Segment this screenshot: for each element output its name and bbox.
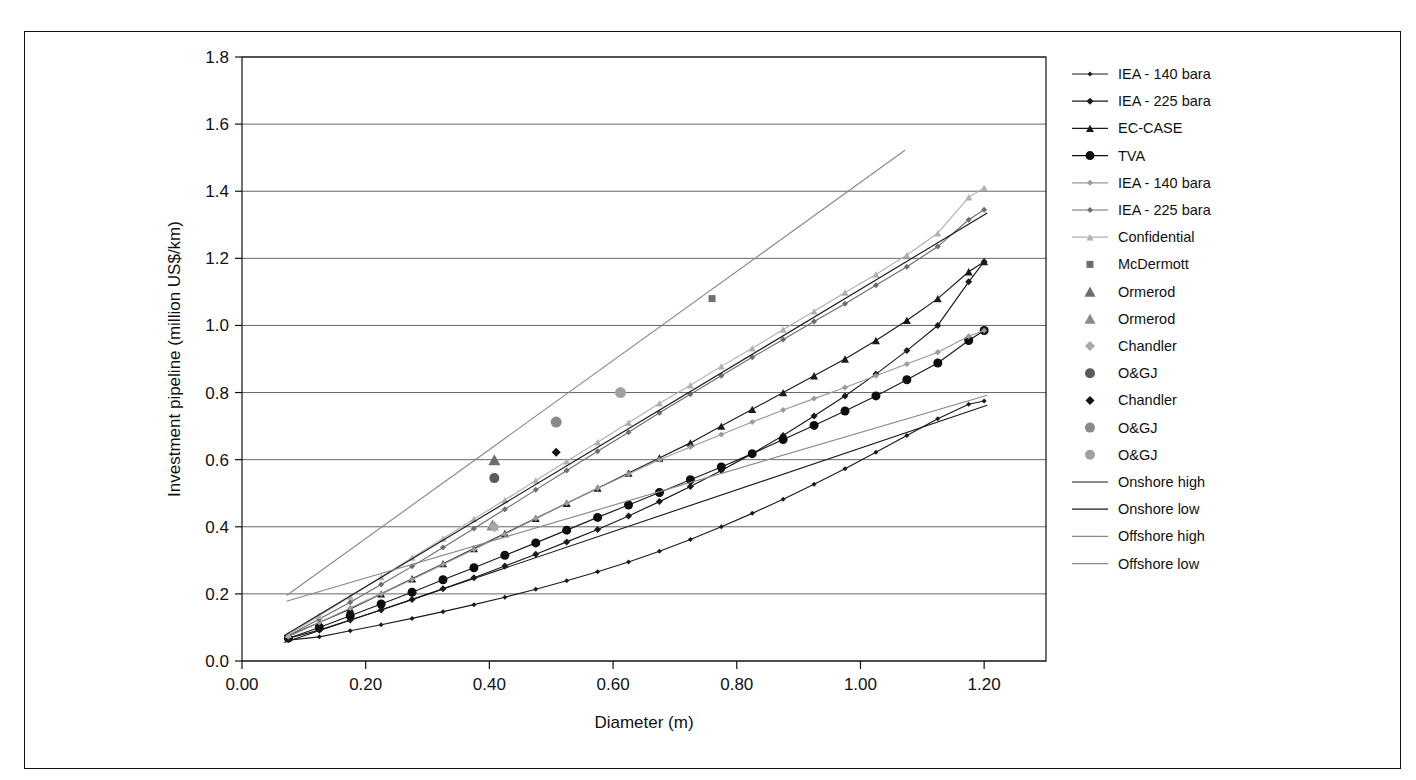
- data-marker-diamond: [564, 467, 570, 473]
- y-tick-label: 0.2: [205, 585, 229, 604]
- data-marker-diamond: [1086, 396, 1095, 405]
- data-marker-diamond: [1088, 72, 1093, 77]
- legend-label: IEA - 140 bara: [1118, 66, 1212, 82]
- data-marker-diamond: [750, 511, 755, 516]
- data-marker-diamond: [935, 349, 941, 355]
- legend-item-7[interactable]: McDermott: [1087, 256, 1189, 272]
- series-line: [284, 405, 987, 642]
- data-marker-diamond: [811, 318, 817, 324]
- data-marker-diamond: [552, 448, 561, 457]
- data-marker-diamond: [981, 207, 987, 213]
- y-tick-label: 0.8: [205, 384, 229, 403]
- legend-label: TVA: [1118, 148, 1145, 164]
- legend-item-12[interactable]: Chandler: [1086, 392, 1178, 408]
- data-marker-circle: [551, 417, 562, 428]
- data-marker-triangle: [872, 337, 880, 344]
- data-marker-diamond: [780, 407, 786, 413]
- data-marker-diamond: [873, 450, 878, 455]
- series-10: [489, 521, 500, 532]
- data-marker-circle: [377, 599, 386, 608]
- legend-item-15[interactable]: Onshore high: [1072, 474, 1205, 490]
- series-line: [288, 262, 984, 636]
- legend-item-10[interactable]: Chandler: [1085, 338, 1177, 354]
- data-marker-triangle: [656, 400, 663, 406]
- data-marker-triangle: [563, 458, 570, 464]
- y-tick-label: 1.2: [205, 249, 229, 268]
- data-marker-diamond: [966, 402, 971, 407]
- y-tick-label: 0.0: [205, 652, 229, 671]
- data-marker-diamond: [843, 466, 848, 471]
- chart-axes-layer: [235, 57, 1046, 669]
- data-marker-triangle: [981, 185, 988, 191]
- legend-item-13[interactable]: O&GJ: [1085, 420, 1157, 436]
- legend-item-17[interactable]: Offshore high: [1072, 528, 1205, 544]
- legend-item-4[interactable]: IEA - 140 bara: [1072, 175, 1212, 191]
- data-marker-diamond: [842, 301, 848, 307]
- data-marker-diamond: [489, 521, 500, 532]
- y-tick-label: 0.4: [205, 518, 229, 537]
- data-marker-triangle: [872, 271, 879, 277]
- data-marker-triangle: [749, 345, 756, 351]
- y-axis-title: Investment pipeline (million US$/km): [165, 221, 184, 497]
- data-marker-diamond: [904, 361, 910, 367]
- data-marker-triangle: [780, 326, 787, 332]
- data-marker-circle: [748, 449, 757, 458]
- legend-item-6[interactable]: Confidential: [1072, 229, 1195, 245]
- series-line: [288, 401, 984, 640]
- data-marker-diamond: [1087, 180, 1093, 186]
- legend-label: Chandler: [1118, 392, 1177, 408]
- data-marker-triangle: [748, 406, 756, 413]
- series-line: [288, 210, 984, 636]
- legend-item-3[interactable]: TVA: [1072, 148, 1145, 164]
- data-marker-diamond: [595, 569, 600, 574]
- data-marker-triangle: [842, 289, 849, 295]
- legend-label: Chandler: [1118, 338, 1177, 354]
- legend-label: Onshore low: [1118, 501, 1200, 517]
- legend-label: IEA - 225 bara: [1118, 93, 1212, 109]
- data-marker-circle: [1085, 368, 1095, 378]
- data-marker-diamond: [348, 628, 353, 633]
- data-marker-circle: [562, 526, 571, 535]
- y-tick-label: 1.8: [205, 48, 229, 67]
- data-marker-triangle: [687, 382, 694, 388]
- legend-item-1[interactable]: IEA - 225 bara: [1072, 93, 1212, 109]
- legend-item-5[interactable]: IEA - 225 bara: [1072, 202, 1212, 218]
- data-marker-diamond: [904, 264, 910, 270]
- data-marker-circle: [408, 588, 417, 597]
- data-marker-diamond: [502, 595, 507, 600]
- data-marker-triangle: [810, 372, 818, 379]
- data-marker-diamond: [1085, 341, 1095, 351]
- data-marker-diamond: [563, 538, 570, 545]
- legend-item-8[interactable]: Ormerod: [1085, 284, 1176, 300]
- data-marker-diamond: [904, 433, 909, 438]
- data-marker-diamond: [811, 413, 818, 420]
- legend-item-0[interactable]: IEA - 140 bara: [1072, 66, 1212, 82]
- series-11: [489, 473, 499, 483]
- series-line: [284, 213, 987, 636]
- legend-item-9[interactable]: Ormerod: [1085, 311, 1176, 327]
- data-marker-diamond: [749, 419, 755, 425]
- x-tick-label: 0.60: [597, 675, 630, 694]
- y-tick-label: 1.0: [205, 316, 229, 335]
- series-15: [284, 213, 987, 636]
- legend-label: Ormerod: [1118, 284, 1175, 300]
- data-marker-diamond: [657, 549, 662, 554]
- legend-label: O&GJ: [1118, 447, 1157, 463]
- data-marker-diamond: [873, 282, 879, 288]
- legend-item-18[interactable]: Offshore low: [1072, 556, 1200, 572]
- data-marker-diamond: [471, 602, 476, 607]
- legend-item-14[interactable]: O&GJ: [1085, 447, 1157, 463]
- data-marker-circle: [779, 435, 788, 444]
- series-13: [551, 417, 562, 428]
- data-marker-triangle: [594, 439, 601, 445]
- legend-item-16[interactable]: Onshore low: [1072, 501, 1200, 517]
- data-marker-circle: [1086, 151, 1095, 160]
- legend-item-11[interactable]: O&GJ: [1085, 365, 1157, 381]
- data-marker-diamond: [935, 416, 940, 421]
- data-marker-diamond: [533, 487, 539, 493]
- data-marker-circle: [489, 473, 499, 483]
- x-tick-label: 0.20: [349, 675, 382, 694]
- series-line: [288, 188, 984, 635]
- legend-item-2[interactable]: EC-CASE: [1072, 120, 1183, 136]
- legend-label: O&GJ: [1118, 365, 1157, 381]
